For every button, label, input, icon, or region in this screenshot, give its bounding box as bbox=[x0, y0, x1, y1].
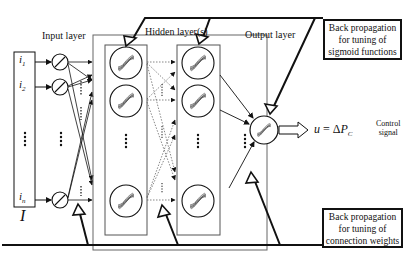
hidden-neuron-2-1 bbox=[182, 47, 214, 79]
output-equation: u = ΔPC bbox=[314, 122, 353, 138]
sigmoid-backprop-box: Back propagation for tuning of sigmoid f… bbox=[323, 19, 402, 60]
input-label-1: i1 bbox=[19, 53, 26, 68]
output-arrow bbox=[279, 122, 308, 138]
weights-backprop-arrowhead-3 bbox=[246, 172, 258, 183]
weights-backprop-arrowhead-1 bbox=[73, 204, 85, 215]
hidden-hidden-connections bbox=[147, 62, 175, 200]
hidden-column-2-ellipsis bbox=[197, 134, 199, 148]
input-label-2: i2 bbox=[19, 78, 26, 93]
input-layer-label: Input layer bbox=[42, 30, 86, 41]
input-hidden-connections bbox=[68, 62, 92, 200]
input-neuron-2 bbox=[52, 79, 68, 95]
input-vector-box bbox=[14, 52, 35, 207]
hidden-layer-label: Hidden layer(s) bbox=[145, 26, 207, 37]
input-neuron-n bbox=[52, 192, 68, 208]
hidden-neuron-1-2 bbox=[110, 85, 142, 117]
hidden-neuron-2-2 bbox=[182, 85, 214, 117]
hidden-neuron-2-m bbox=[182, 185, 214, 217]
output-neuron bbox=[250, 116, 278, 144]
input-vector-label: I bbox=[20, 207, 25, 225]
input-neuron-1 bbox=[52, 54, 68, 70]
weights-backprop-box: Back propagation for tuning of connectio… bbox=[322, 208, 403, 248]
input-neuron-ellipsis bbox=[60, 132, 62, 146]
weights-backprop-arrowhead-2 bbox=[158, 205, 170, 217]
hidden-neuron-1-1 bbox=[110, 47, 142, 79]
hidden-output-connections bbox=[220, 75, 254, 188]
input-vector-ellipsis bbox=[24, 132, 26, 146]
input-label-n: in bbox=[19, 190, 26, 205]
control-signal-label: Controlsignal bbox=[376, 119, 400, 137]
hidden-neuron-1-m bbox=[110, 185, 142, 217]
output-layer-label: Output layer bbox=[245, 29, 295, 40]
output-input-ellipsis bbox=[244, 134, 246, 148]
hidden-column-1-ellipsis bbox=[125, 134, 127, 148]
